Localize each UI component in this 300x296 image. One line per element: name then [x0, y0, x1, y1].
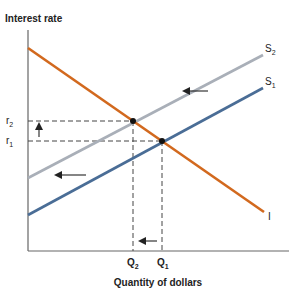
s1-label: S1 — [265, 76, 276, 89]
x-axis-title: Quantity of dollars — [114, 277, 203, 288]
r1-label: r1 — [6, 135, 13, 148]
guide-lines — [28, 121, 162, 251]
r2-label: r2 — [6, 115, 13, 128]
y-axis-title: Interest rate — [5, 13, 63, 24]
chart: Interest rate Quantity of dollars S2 S1 … — [0, 0, 300, 296]
i-label: I — [268, 211, 271, 222]
equilibrium-point-2 — [130, 118, 136, 124]
q1-label: Q1 — [157, 257, 169, 270]
s1-curve — [28, 88, 263, 215]
equilibrium-point-1 — [159, 138, 165, 144]
q2-label: Q2 — [127, 257, 139, 270]
s2-label: S2 — [265, 43, 276, 56]
